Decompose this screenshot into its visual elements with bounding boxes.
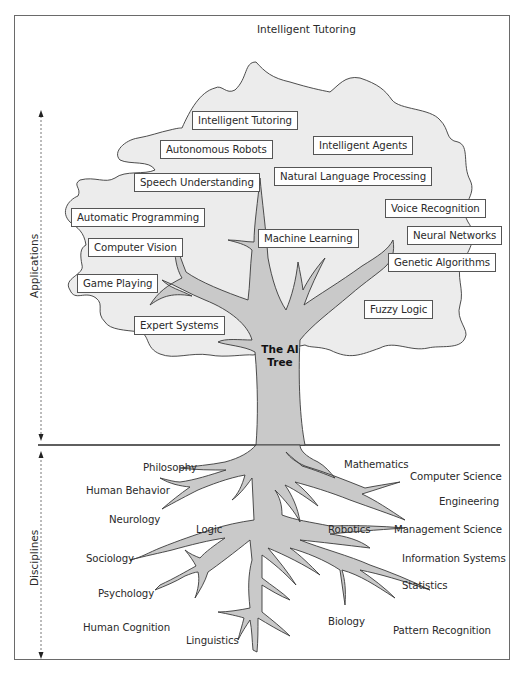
discipline-label: Human Behavior (86, 485, 170, 496)
tree-roots (130, 445, 430, 652)
discipline-label: Linguistics (186, 635, 239, 646)
ai-tree-illustration (0, 0, 517, 673)
discipline-label: Engineering (439, 496, 499, 507)
applications-axis-label: Applications (28, 234, 40, 298)
application-box: Automatic Programming (71, 208, 205, 227)
discipline-label: Neurology (109, 514, 160, 525)
discipline-label: Management Science (394, 524, 502, 535)
disciplines-axis-label: Disciplines (28, 530, 40, 586)
application-box: Speech Understanding (134, 173, 260, 192)
discipline-label: Biology (328, 616, 365, 627)
application-box: Intelligent Tutoring (192, 111, 298, 130)
discipline-label: Information Systems (402, 553, 506, 564)
diagram-title: Intelligent Tutoring (257, 23, 356, 35)
discipline-label: Mathematics (344, 459, 409, 470)
application-box: Expert Systems (134, 316, 225, 335)
application-box: Natural Language Processing (274, 167, 432, 186)
discipline-label: Psychology (98, 588, 154, 599)
discipline-label: Sociology (86, 553, 134, 564)
arrow-down-icon (39, 434, 44, 441)
discipline-label: Pattern Recognition (393, 625, 491, 636)
application-box: Computer Vision (88, 238, 183, 257)
application-box: Fuzzy Logic (364, 300, 433, 319)
discipline-label: Human Cognition (83, 622, 170, 633)
discipline-label: Logic (196, 524, 222, 535)
arrow-up-icon (39, 110, 44, 117)
discipline-label: Statistics (402, 580, 448, 591)
arrow-down-icon (39, 652, 44, 659)
application-box: Neural Networks (407, 226, 502, 245)
discipline-label: Philosophy (143, 462, 197, 473)
application-box: Voice Recognition (385, 199, 486, 218)
application-box: Intelligent Agents (313, 136, 413, 155)
application-box: Machine Learning (258, 229, 359, 248)
application-box: Autonomous Robots (160, 140, 273, 159)
discipline-label: Robotics (328, 524, 371, 535)
arrow-up-icon (39, 451, 44, 458)
tree-label-line-1: The AI (255, 343, 305, 356)
application-box: Genetic Algorithms (388, 253, 496, 272)
application-box: Game Playing (77, 274, 158, 293)
tree-label: The AI Tree (255, 343, 305, 369)
tree-label-line-2: Tree (255, 356, 305, 369)
discipline-label: Computer Science (410, 471, 502, 482)
